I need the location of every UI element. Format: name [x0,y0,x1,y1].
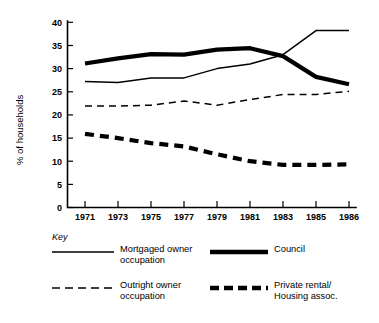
y-tick-label-10: 10 [52,157,62,167]
x-tick-label-1973: 1973 [108,212,128,222]
y-tick-label-40: 40 [52,18,62,28]
x-tick-label-1971: 1971 [75,212,95,222]
legend-swatch-thin-solid [52,245,114,259]
x-tick-label-1985: 1985 [306,212,326,222]
series-line-council [85,48,349,84]
chart-figure: % of households 0 5 10 15 20 25 30 35 40 [0,0,379,323]
y-axis-title: % of households [14,95,25,165]
y-tick-label-5: 5 [57,180,62,190]
legend-label-council: Council [274,244,305,255]
legend-label-outright: Outright owner occupation [120,280,181,302]
legend-key-label: Key [52,232,68,242]
y-tick-label-25: 25 [52,87,62,97]
legend-item-private-rental: Private rental/ Housing assoc. [210,280,338,302]
x-tick-label-1986: 1986 [339,212,359,222]
line-chart-plot: % of households 0 5 10 15 20 25 30 35 40 [0,0,379,232]
legend-swatch-thick-solid [210,245,268,259]
x-tick-label-1977: 1977 [174,212,194,222]
legend-swatch-thin-dashed [52,281,114,295]
legend-item-council: Council [210,244,305,259]
series-line-outright [85,91,349,106]
y-tick-label-30: 30 [52,64,62,74]
x-axis-ticks: 1971 1973 1975 1977 1979 1981 1983 1985 … [75,201,359,222]
y-axis-ticks: 0 5 10 15 20 25 30 35 40 [52,18,73,213]
legend-item-mortgaged: Mortgaged owner occupation [52,244,192,266]
legend-item-outright: Outright owner occupation [52,280,181,302]
legend-label-private-rental: Private rental/ Housing assoc. [274,280,338,302]
x-tick-label-1979: 1979 [207,212,227,222]
series-line-private-rental [85,134,349,165]
y-tick-label-0: 0 [57,203,62,213]
x-tick-label-1983: 1983 [273,212,293,222]
y-tick-label-20: 20 [52,110,62,120]
x-tick-label-1981: 1981 [240,212,260,222]
y-tick-label-15: 15 [52,133,62,143]
y-tick-label-35: 35 [52,41,62,51]
legend-label-mortgaged: Mortgaged owner occupation [120,244,192,266]
x-tick-label-1975: 1975 [141,212,161,222]
series-group [85,31,349,165]
chart-legend: Key Mortgaged owner occupation Council O… [0,232,379,323]
legend-swatch-thick-dashed [210,281,268,295]
